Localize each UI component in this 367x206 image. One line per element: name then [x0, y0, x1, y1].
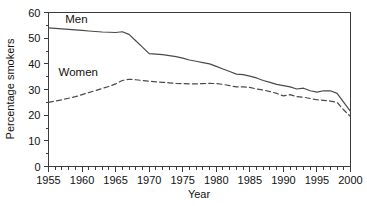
y-tick-label: 60	[28, 7, 40, 19]
x-tick-label: 1985	[238, 174, 262, 186]
y-tick-label: 10	[28, 135, 40, 147]
series-label-men: Men	[65, 13, 87, 25]
x-tick-label: 1955	[36, 174, 60, 186]
smoking-prevalence-line-chart: 0102030405060 19551960196519701975198019…	[0, 0, 367, 206]
x-axis-title: Year	[188, 188, 211, 200]
y-tick-label: 0	[34, 161, 40, 173]
x-tick-label: 1990	[271, 174, 295, 186]
y-tick-label: 50	[28, 32, 40, 44]
y-axis-tick-labels: 0102030405060	[28, 7, 40, 173]
series-inline-labels: MenWomen	[59, 13, 98, 78]
x-tick-label: 1975	[170, 174, 194, 186]
x-tick-label: 1960	[70, 174, 94, 186]
y-axis-title: Percentage smokers	[4, 38, 16, 139]
series-label-women: Women	[59, 66, 98, 78]
x-tick-label: 1995	[305, 174, 329, 186]
x-tick-label: 1970	[137, 174, 161, 186]
x-axis-ticks	[49, 167, 351, 172]
x-tick-label: 1965	[103, 174, 127, 186]
x-tick-label: 2000	[338, 174, 362, 186]
chart-svg: 0102030405060 19551960196519701975198019…	[0, 0, 367, 206]
y-tick-label: 40	[28, 58, 40, 70]
y-tick-label: 30	[28, 84, 40, 96]
x-tick-label: 1980	[204, 174, 228, 186]
y-tick-label: 20	[28, 109, 40, 121]
y-axis-ticks	[44, 13, 49, 167]
series-line-women	[49, 79, 351, 116]
x-axis-tick-labels: 1955196019651970197519801985199019952000	[36, 174, 362, 186]
